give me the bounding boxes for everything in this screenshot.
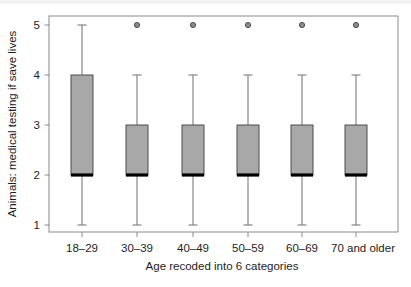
- outlier-point-3-1: [190, 22, 195, 27]
- box-iqr-3: [182, 125, 204, 175]
- y-tick-label-2: 2: [34, 169, 40, 181]
- plot-frame: [49, 16, 398, 232]
- x-tick-label-2: 30–39: [121, 242, 153, 254]
- box-iqr-2: [126, 125, 148, 175]
- box-iqr-5: [291, 125, 313, 175]
- x-tick-label-4: 50–59: [232, 242, 264, 254]
- boxplot-canvas: 5 4 3 2 1 Animals: medical testing if sa…: [0, 0, 411, 287]
- x-tick-label-6: 70 and older: [331, 242, 395, 254]
- outlier-point-6-1: [353, 22, 358, 27]
- x-tick-label-5: 60–69: [286, 242, 318, 254]
- box-iqr-6: [345, 125, 367, 175]
- x-axis-tick-labels: 18–29 30–39 40–49 50–59 60–69 70 and old…: [66, 242, 395, 254]
- y-axis-title: Animals: medical testing if save lives: [6, 30, 18, 217]
- y-tick-label-1: 1: [34, 219, 40, 231]
- x-tick-label-1: 18–29: [66, 242, 98, 254]
- outlier-point-5-1: [299, 22, 304, 27]
- outlier-point-4-1: [245, 22, 250, 27]
- y-tick-label-5: 5: [34, 19, 40, 31]
- y-axis-tick-labels: 5 4 3 2 1: [34, 19, 41, 231]
- box-iqr-4: [237, 125, 259, 175]
- boxplot-figure: 5 4 3 2 1 Animals: medical testing if sa…: [0, 0, 411, 287]
- y-tick-label-4: 4: [34, 69, 41, 81]
- scan-artifact-top: [0, 0, 411, 4]
- x-axis-title: Age recoded into 6 categories: [146, 260, 299, 272]
- x-axis-ticks: [82, 232, 356, 237]
- x-tick-label-3: 40–49: [177, 242, 209, 254]
- box-iqr-1: [71, 75, 93, 175]
- outlier-point-2-1: [134, 22, 139, 27]
- y-tick-label-3: 3: [34, 119, 40, 131]
